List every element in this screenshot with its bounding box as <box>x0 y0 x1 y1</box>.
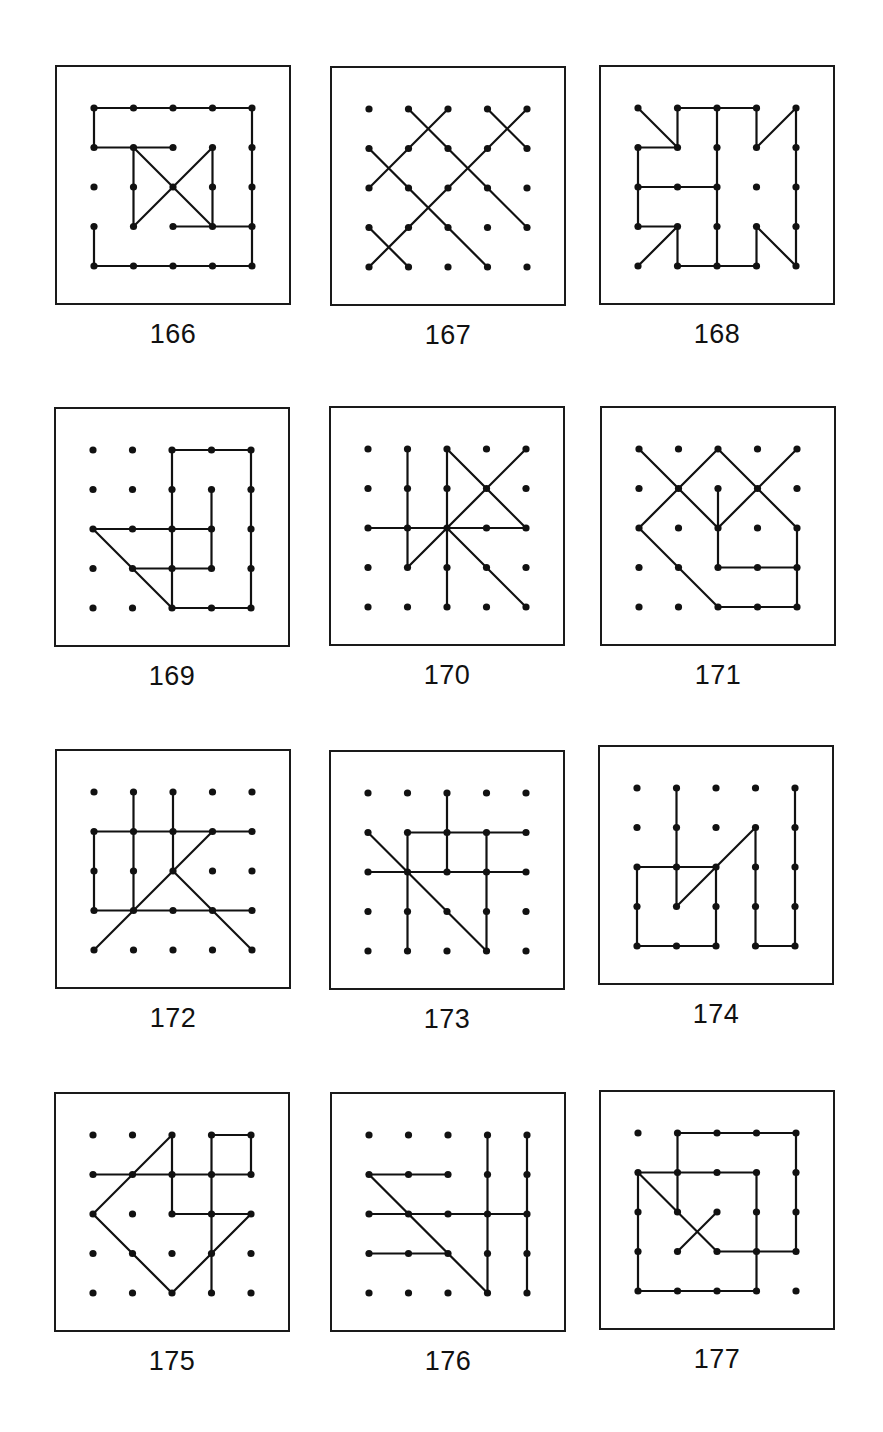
grid-dot <box>364 908 371 915</box>
grid-dot <box>365 1131 372 1138</box>
grid-dot <box>484 105 491 112</box>
puzzle-panel-167: 167 <box>330 66 566 351</box>
grid-dot <box>405 1250 412 1257</box>
grid-dot <box>675 564 682 571</box>
grid-dot <box>365 1250 372 1257</box>
grid-dot <box>247 1289 254 1296</box>
grid-dot <box>168 1210 175 1217</box>
grid-line <box>408 449 527 568</box>
grid-dot <box>674 1129 681 1136</box>
grid-dot <box>634 1169 641 1176</box>
grid-dot <box>208 1250 215 1257</box>
grid-dot <box>674 1208 681 1215</box>
grid-dot <box>674 262 681 269</box>
grid-dot <box>674 183 681 190</box>
grid-dot <box>713 223 720 230</box>
grid-dot <box>791 824 798 831</box>
grid-dot <box>483 908 490 915</box>
dot-grid-box <box>599 1090 835 1330</box>
dot-grid-figure <box>57 751 289 987</box>
grid-dot <box>248 828 255 835</box>
grid-dot <box>753 183 760 190</box>
grid-dot <box>169 223 176 230</box>
grid-dot <box>674 1248 681 1255</box>
dot-grid-figure <box>601 67 833 303</box>
grid-dot <box>633 942 640 949</box>
grid-dot <box>443 789 450 796</box>
grid-dot <box>484 1250 491 1257</box>
grid-dot <box>673 863 680 870</box>
grid-dot <box>404 947 411 954</box>
grid-dot <box>404 564 411 571</box>
grid-dot <box>364 485 371 492</box>
grid-dot <box>444 1289 451 1296</box>
grid-dot <box>483 603 490 610</box>
grid-dot <box>89 1250 96 1257</box>
puzzle-panel-172: 172 <box>55 749 291 1034</box>
grid-dot <box>674 104 681 111</box>
grid-dot <box>792 104 799 111</box>
grid-dot <box>129 525 136 532</box>
grid-dot <box>522 829 529 836</box>
grid-dot <box>523 224 530 231</box>
grid-dot <box>712 903 719 910</box>
grid-dot <box>365 145 372 152</box>
grid-dot <box>89 604 96 611</box>
grid-dot <box>405 1131 412 1138</box>
grid-dot <box>675 603 682 610</box>
grid-dot <box>483 445 490 452</box>
grid-dot <box>712 784 719 791</box>
grid-dot <box>405 224 412 231</box>
grid-dot <box>247 1210 254 1217</box>
grid-dot <box>673 824 680 831</box>
grid-dot <box>522 789 529 796</box>
puzzle-panel-170: 170 <box>329 406 565 691</box>
grid-dot <box>634 1208 641 1215</box>
grid-dot <box>168 1289 175 1296</box>
grid-dot <box>247 1131 254 1138</box>
grid-dot <box>444 184 451 191</box>
grid-dot <box>523 1210 530 1217</box>
grid-dot <box>444 145 451 152</box>
grid-dot <box>752 863 759 870</box>
grid-dot <box>365 224 372 231</box>
grid-dot <box>675 524 682 531</box>
grid-dot <box>443 829 450 836</box>
grid-dot <box>675 445 682 452</box>
grid-dot <box>169 907 176 914</box>
grid-dot <box>792 1248 799 1255</box>
grid-dot <box>208 1171 215 1178</box>
grid-dot <box>168 446 175 453</box>
grid-dot <box>793 445 800 452</box>
grid-dot <box>522 445 529 452</box>
grid-dot <box>675 485 682 492</box>
grid-dot <box>208 1210 215 1217</box>
grid-dot <box>404 603 411 610</box>
puzzle-panel-173: 173 <box>329 750 565 1035</box>
grid-dot <box>673 903 680 910</box>
grid-dot <box>90 828 97 835</box>
dot-grid-figure <box>56 1094 288 1330</box>
grid-dot <box>484 1289 491 1296</box>
dot-grid-box <box>330 1092 566 1332</box>
grid-dot <box>247 525 254 532</box>
grid-dot <box>793 564 800 571</box>
dot-grid-box <box>55 749 291 989</box>
grid-dot <box>404 789 411 796</box>
grid-dot <box>444 224 451 231</box>
grid-dot <box>365 105 372 112</box>
grid-dot <box>713 104 720 111</box>
dot-grid-box <box>599 65 835 305</box>
grid-dot <box>89 486 96 493</box>
grid-dot <box>209 262 216 269</box>
grid-dot <box>130 144 137 151</box>
grid-dot <box>523 1289 530 1296</box>
grid-dot <box>247 446 254 453</box>
grid-dot <box>634 262 641 269</box>
grid-dot <box>443 485 450 492</box>
grid-dot <box>712 942 719 949</box>
grid-dot <box>130 104 137 111</box>
grid-dot <box>209 183 216 190</box>
grid-dot <box>168 1131 175 1138</box>
grid-dot <box>792 223 799 230</box>
